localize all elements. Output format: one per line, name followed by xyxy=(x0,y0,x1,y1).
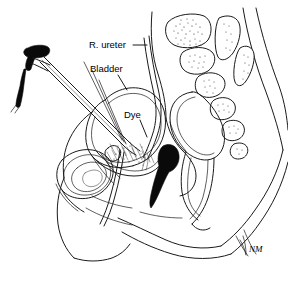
label-bladder: Bladder xyxy=(90,63,123,74)
label-dye: Dye xyxy=(124,109,141,120)
illustration-canvas: R. ureter Bladder Dye NM xyxy=(0,0,288,284)
pelvic-sagittal-diagram: R. ureter Bladder Dye NM xyxy=(0,0,288,284)
signature-text: NM xyxy=(248,244,263,254)
label-r-ureter: R. ureter xyxy=(89,39,126,50)
